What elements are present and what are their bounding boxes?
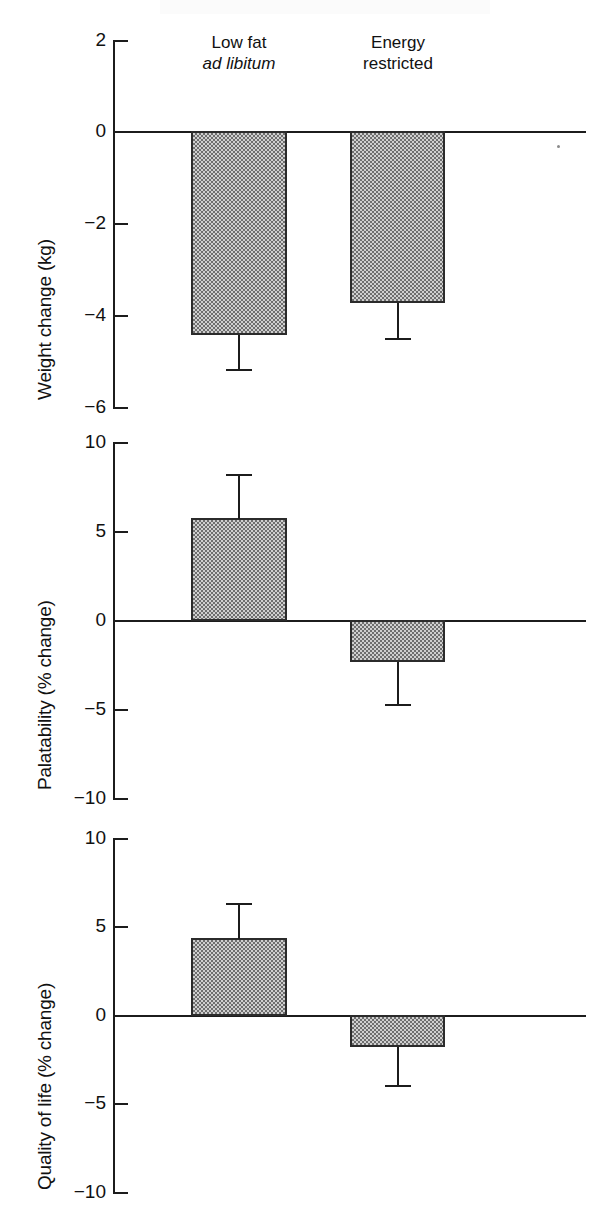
y-ticklabel-panel1-2: 2 bbox=[58, 29, 106, 51]
error-stem-weight-energy-restricted bbox=[397, 303, 399, 339]
error-stem-weight-low-fat bbox=[238, 335, 240, 370]
bar-weight-energy-restricted bbox=[350, 131, 445, 303]
bar-palatability-energy-restricted bbox=[350, 620, 445, 662]
y-tick-panel1-m2 bbox=[113, 223, 128, 225]
bar-quality-of-life-energy-restricted bbox=[350, 1015, 445, 1047]
y-ticklabel-panel1-0: 0 bbox=[58, 120, 106, 142]
y-ticklabel-panel2-5: 5 bbox=[48, 520, 106, 542]
error-cap-quality-of-life-energy-restricted bbox=[385, 1085, 411, 1087]
group-header-low-fat: Low fat ad libitum bbox=[169, 32, 309, 74]
y-ticklabel-panel2-10: 10 bbox=[48, 431, 106, 453]
y-tick-panel3-5 bbox=[113, 926, 128, 928]
y-tick-panel2-m10 bbox=[113, 798, 128, 800]
y-tick-panel2-10 bbox=[113, 442, 128, 444]
scan-speck-artifact bbox=[557, 145, 560, 148]
y-tick-panel2-5 bbox=[113, 531, 128, 533]
y-ticklabel-panel1-m6: −6 bbox=[58, 396, 106, 418]
error-cap-palatability-low-fat bbox=[226, 474, 252, 476]
group-header-energy-restricted-line2: restricted bbox=[328, 53, 468, 74]
y-ticklabel-panel2-m5: −5 bbox=[48, 698, 106, 720]
y-ticklabel-panel1-m4: −4 bbox=[58, 304, 106, 326]
y-ticklabel-panel1-m2: −2 bbox=[58, 212, 106, 234]
y-tick-panel3-m5 bbox=[113, 1103, 128, 1105]
group-header-low-fat-line1: Low fat bbox=[169, 32, 309, 53]
y-tick-panel1-2 bbox=[113, 40, 128, 42]
y-ticklabel-panel2-0: 0 bbox=[48, 609, 106, 631]
error-cap-weight-energy-restricted bbox=[385, 338, 411, 340]
y-tick-panel2-m5 bbox=[113, 709, 128, 711]
error-stem-quality-of-life-low-fat bbox=[238, 904, 240, 939]
figure-three-panel-bar-chart: Weight change (kg) 2 0 −2 −4 −6 Low fat … bbox=[0, 0, 613, 1225]
y-tick-panel3-10 bbox=[113, 838, 128, 840]
y-tick-panel1-m6 bbox=[113, 407, 128, 409]
error-cap-quality-of-life-low-fat bbox=[226, 903, 252, 905]
error-stem-palatability-energy-restricted bbox=[397, 662, 399, 706]
bar-palatability-low-fat bbox=[191, 518, 287, 621]
error-stem-quality-of-life-energy-restricted bbox=[397, 1047, 399, 1086]
y-ticklabel-panel2-m10: −10 bbox=[48, 787, 106, 809]
panel-weight-change: Weight change (kg) 2 0 −2 −4 −6 Low fat … bbox=[0, 0, 613, 420]
group-header-energy-restricted: Energy restricted bbox=[328, 32, 468, 74]
y-ticklabel-panel3-10: 10 bbox=[48, 827, 106, 849]
y-ticklabel-panel3-0: 0 bbox=[48, 1004, 106, 1026]
error-stem-palatability-low-fat bbox=[238, 475, 240, 519]
error-cap-weight-low-fat bbox=[226, 369, 252, 371]
y-tick-panel1-m4 bbox=[113, 315, 128, 317]
bar-quality-of-life-low-fat bbox=[191, 938, 287, 1016]
y-tick-panel3-m10 bbox=[113, 1192, 128, 1194]
group-header-energy-restricted-line1: Energy bbox=[328, 32, 468, 53]
axis-label-weight-change: Weight change (kg) bbox=[34, 239, 56, 400]
y-ticklabel-panel3-m10: −10 bbox=[48, 1181, 106, 1203]
y-ticklabel-panel3-5: 5 bbox=[48, 915, 106, 937]
group-header-low-fat-line2: ad libitum bbox=[169, 53, 309, 74]
error-cap-palatability-energy-restricted bbox=[385, 704, 411, 706]
y-ticklabel-panel3-m5: −5 bbox=[48, 1092, 106, 1114]
bar-weight-low-fat bbox=[191, 131, 287, 335]
